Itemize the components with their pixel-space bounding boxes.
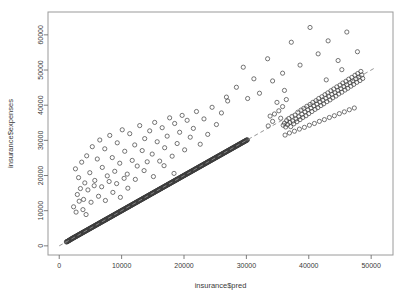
y-tick-label: 10000 <box>37 201 44 221</box>
x-tick-label: 20000 <box>174 262 194 269</box>
y-tick-label: 30000 <box>37 131 44 151</box>
y-tick-label: 60000 <box>37 25 44 45</box>
x-tick-label: 30000 <box>237 262 257 269</box>
x-tick-label: 0 <box>57 262 61 269</box>
scatter-plot-figure: 0100002000030000400005000001000020000300… <box>0 0 406 300</box>
y-tick-label: 40000 <box>37 95 44 115</box>
y-tick-label: 50000 <box>37 60 44 80</box>
y-tick-label: 0 <box>37 244 44 248</box>
plot-canvas: 0100002000030000400005000001000020000300… <box>0 0 406 300</box>
x-tick-label: 50000 <box>361 262 381 269</box>
x-tick-label: 40000 <box>299 262 319 269</box>
x-axis-title: insurance$pred <box>195 281 247 290</box>
y-tick-label: 20000 <box>37 166 44 186</box>
x-tick-label: 10000 <box>112 262 132 269</box>
y-axis-title: insurance$expenses <box>6 99 15 168</box>
